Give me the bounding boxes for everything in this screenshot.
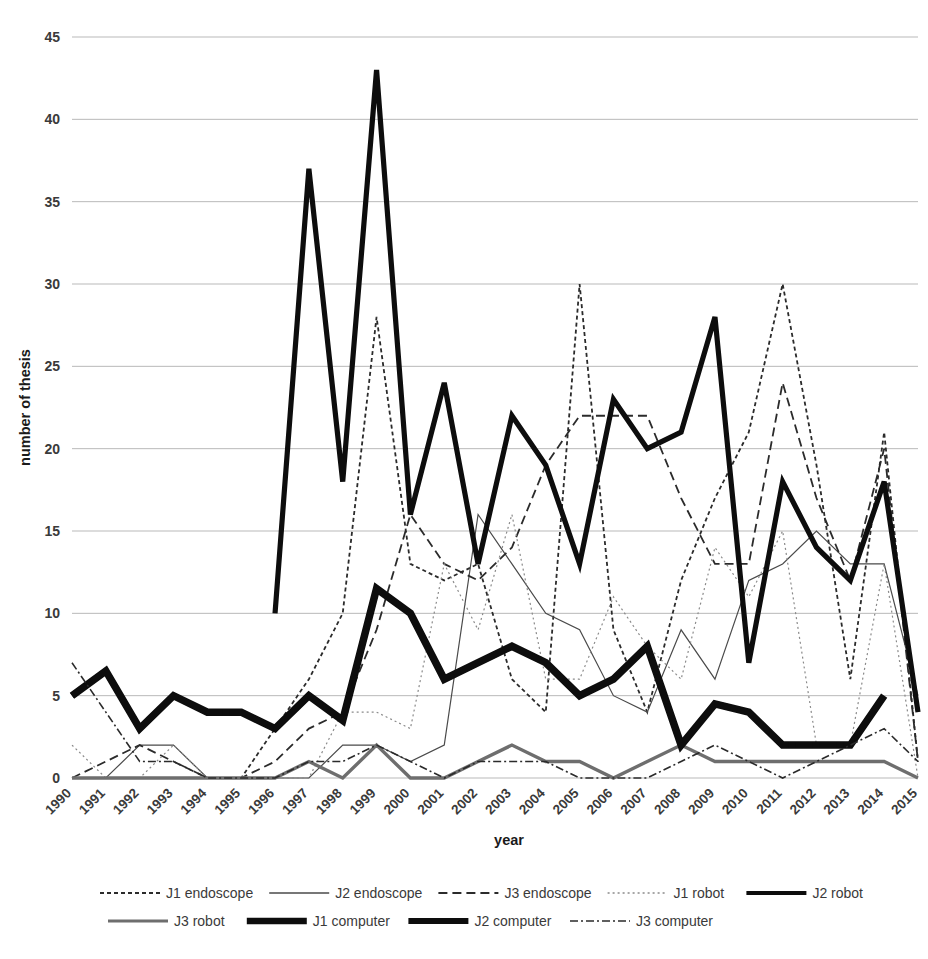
legend-item[interactable]: J2 endoscope [269,885,422,901]
x-tick-label: 1990 [42,786,74,818]
legend-item[interactable]: J2 computer [408,913,551,929]
x-tick-label: 1993 [144,785,176,817]
x-axis-title: year [494,832,524,848]
x-tick-label: 2011 [753,785,785,817]
x-tick-label: 1995 [211,785,243,817]
y-axis-title: number of thesis [17,349,33,466]
series-line-j3-endoscope [72,383,918,778]
x-tick-label: 2012 [787,786,819,818]
x-tick-label: 2014 [854,785,886,817]
legend-item[interactable]: J3 robot [108,913,225,929]
y-tick-label: 5 [52,688,60,704]
x-tick-label: 2000 [381,786,413,818]
y-tick-label: 25 [44,358,60,374]
y-tick-label: 30 [44,276,60,292]
x-tick-label: 2001 [415,785,447,817]
line-chart: 0510152025303540451990199119921993199419… [0,0,928,959]
legend-label: J3 computer [636,913,713,929]
series-layer [72,70,918,778]
legend-item[interactable]: J1 robot [608,885,725,901]
x-tick-label: 2004 [516,785,548,817]
legend-label: J1 robot [674,885,725,901]
x-tick-label: 2002 [448,786,480,818]
legend-label: J2 endoscope [335,885,422,901]
y-tick-label: 10 [44,605,60,621]
gridlines: 051015202530354045 [44,29,918,786]
legend-item[interactable]: J2 robot [746,885,863,901]
x-tick-label: 1998 [313,785,345,817]
y-tick-label: 0 [52,770,60,786]
y-tick-label: 45 [44,29,60,45]
x-tick-label: 2008 [651,785,683,817]
chart-container: 0510152025303540451990199119921993199419… [0,0,928,959]
x-tick-label: 2015 [888,785,920,817]
legend-item[interactable]: J3 computer [570,913,713,929]
legend-label: J2 computer [474,913,551,929]
legend-item[interactable]: J1 computer [247,913,390,929]
x-tick-label: 2005 [550,785,582,817]
x-tick-label: 2009 [685,786,717,818]
legend-label: J3 robot [174,913,225,929]
y-tick-label: 15 [44,523,60,539]
x-tick-label: 1997 [279,786,311,818]
x-tick-labels: 1990199119921993199419951996199719981999… [42,785,920,817]
y-tick-label: 20 [44,441,60,457]
x-tick-label: 2013 [821,785,853,817]
y-tick-label: 35 [44,194,60,210]
x-tick-label: 1994 [178,785,210,817]
x-tick-label: 1991 [76,785,108,817]
x-tick-label: 2007 [618,786,650,818]
x-tick-label: 1999 [347,786,379,818]
y-tick-label: 40 [44,111,60,127]
x-tick-label: 1992 [110,786,142,818]
legend-label: J2 robot [812,885,863,901]
legend-label: J1 endoscope [166,885,253,901]
legend-label: J3 endoscope [504,885,591,901]
legend-label: J1 computer [313,913,390,929]
x-tick-label: 2006 [584,785,616,817]
x-tick-label: 2003 [482,785,514,817]
series-line-j2-endoscope [72,515,918,778]
x-tick-label: 1996 [245,785,277,817]
legend-item[interactable]: J1 endoscope [100,885,253,901]
x-tick-label: 2010 [719,786,751,818]
series-line-j1-robot [72,515,918,778]
legend-item[interactable]: J3 endoscope [438,885,591,901]
